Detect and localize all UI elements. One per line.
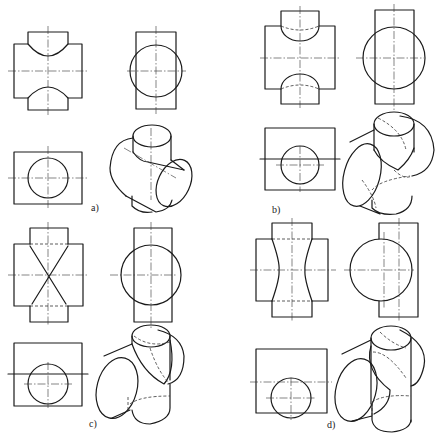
panel-b-label: b) [272, 204, 280, 215]
panel-c-front-view [8, 222, 88, 326]
panel-d-label: d) [327, 419, 335, 430]
panel-d-side-view [344, 218, 418, 322]
panel-c-label: c) [89, 418, 97, 429]
panel-d-front-view [250, 218, 336, 322]
panel-d-top-view [250, 349, 332, 420]
panel-c-top-view [8, 343, 88, 408]
intersecting-cylinders-figure [0, 0, 441, 438]
panel-a [8, 26, 199, 212]
panel-a-side-view [127, 26, 186, 114]
panel-d [250, 218, 425, 432]
panel-c-isometric-view [90, 325, 184, 424]
panel-b-front-view [260, 6, 340, 108]
panel-a-label: a) [91, 202, 99, 213]
panel-d-isometric-view [328, 326, 424, 432]
panel-b [260, 4, 434, 214]
panel-a-top-view [8, 146, 88, 210]
panel-b-side-view [356, 4, 425, 110]
panel-a-front-view [8, 26, 88, 116]
panel-b-top-view [260, 128, 340, 192]
panel-c [8, 222, 184, 424]
panel-a-isometric-view [110, 125, 199, 212]
panel-b-isometric-view [336, 112, 434, 214]
panel-c-side-view [110, 222, 181, 328]
